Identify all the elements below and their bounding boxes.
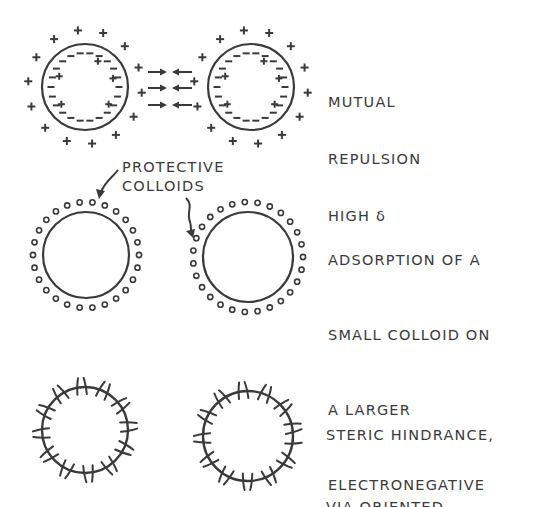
protective-colloid-ring: [208, 294, 213, 299]
protective-colloid-ring: [199, 285, 204, 290]
protective-colloid-ring: [102, 302, 107, 307]
label-line: STERIC HINDRANCE,: [326, 423, 494, 447]
protective-colloid-ring: [32, 265, 37, 270]
charged-colloid: [190, 26, 311, 147]
protective-colloid-ring: [230, 202, 235, 207]
protective-colloid-ring: [102, 203, 107, 208]
label-line: ADSORPTION OF A: [328, 248, 491, 273]
protective-colloid-ring: [278, 299, 283, 304]
protective-colloid-ring: [77, 200, 82, 205]
protective-colloid-ring: [44, 217, 49, 222]
label-line: REPULSION: [328, 150, 421, 169]
protective-colloid-ring: [136, 252, 141, 257]
protective-colloid-ring: [36, 228, 41, 233]
mutual-repulsion-illustration: [24, 26, 311, 147]
protective-colloid-ring: [135, 240, 140, 245]
protective-colloid-ring: [30, 252, 35, 257]
protective-colloid-ring: [218, 207, 223, 212]
protective-colloid-ring: [255, 200, 260, 205]
protective-colloid-ring: [194, 236, 199, 241]
protective-colloid-ring: [114, 296, 119, 301]
protective-colloid-ring: [90, 305, 95, 310]
protective-colloid-ring: [77, 305, 82, 310]
protective-colloid-ring: [114, 209, 119, 214]
label-line: VIA ORIENTED: [326, 495, 494, 507]
steric-hindrance-illustration: [33, 378, 302, 490]
protective-colloid-ring: [267, 204, 272, 209]
callout-line: PROTECTIVE: [122, 158, 225, 177]
protective-colloid-ring: [130, 228, 135, 233]
protective-colloid-ring: [230, 307, 235, 312]
protective-colloid-ring: [295, 279, 300, 284]
protective-colloid-ring: [218, 302, 223, 307]
label-line: SMALL COLLOID ON: [328, 323, 491, 348]
charged-colloid: [24, 26, 145, 147]
protective-colloid-ring: [123, 288, 128, 293]
protective-colloid-ring: [53, 296, 58, 301]
protective-colloid-ring: [53, 209, 58, 214]
protective-colloid-ring: [199, 224, 204, 229]
protective-colloid-ring: [278, 210, 283, 215]
colloid-with-protective-rings: [191, 199, 306, 314]
protective-colloid-ring: [44, 288, 49, 293]
protective-colloid-ring: [123, 217, 128, 222]
colloid-with-oriented-chains: [33, 378, 137, 482]
protective-colloid-ring: [135, 265, 140, 270]
protective-colloid-ring: [32, 240, 37, 245]
colloid-with-protective-rings: [30, 200, 141, 310]
protective-colloid-ring: [300, 254, 305, 259]
protective-colloid-ring: [299, 267, 304, 272]
protective-colloid-ring: [242, 199, 247, 204]
protective-colloid-ring: [288, 219, 293, 224]
protective-colloid-ring: [208, 214, 213, 219]
protective-colloid-ring: [65, 203, 70, 208]
protective-colloid-ring: [36, 277, 41, 282]
protective-colloids-callout: PROTECTIVE COLLOIDS: [122, 158, 225, 196]
steric-hindrance-label: STERIC HINDRANCE, VIA ORIENTED NON-CHARG…: [326, 375, 494, 507]
protective-colloid-ring: [255, 309, 260, 314]
colloid-with-oriented-chains: [194, 382, 302, 490]
repulsion-arrows: [148, 69, 192, 109]
protective-colloid-ring: [242, 309, 247, 314]
callout-line: COLLOIDS: [122, 177, 225, 196]
protective-colloid-ring: [194, 273, 199, 278]
protective-colloid-ring: [295, 230, 300, 235]
protective-colloid-ring: [288, 290, 293, 295]
protective-colloid-ring: [90, 200, 95, 205]
protective-colloid-ring: [267, 305, 272, 310]
protective-colloid-ring: [191, 261, 196, 266]
label-line: MUTUAL: [328, 93, 421, 112]
protective-colloid-ring: [191, 248, 196, 253]
protective-colloid-ring: [65, 302, 70, 307]
protective-colloid-ring: [299, 242, 304, 247]
protective-colloid-ring: [130, 277, 135, 282]
